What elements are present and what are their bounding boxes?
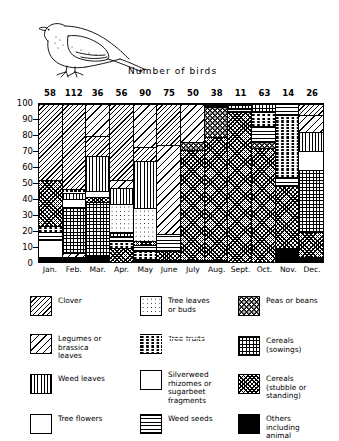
bar-segment (157, 260, 180, 262)
legend-swatch (238, 374, 260, 394)
bar-segment (86, 156, 109, 191)
bar-segment (134, 104, 157, 147)
bar-segment (252, 104, 275, 112)
bar-segment (276, 104, 299, 115)
legend-swatch (30, 414, 52, 434)
bar-segment (252, 126, 275, 142)
bar-segment (110, 104, 133, 180)
bar-segment (63, 199, 86, 207)
y-axis-tick-label: 70 (22, 147, 33, 156)
bar-column (157, 104, 181, 262)
bar-segment (276, 248, 299, 262)
y-axis-tick-label: 100 (17, 99, 33, 108)
legend-swatch (140, 334, 162, 354)
bar-segment (205, 260, 228, 262)
month-label: Nov. (276, 265, 300, 275)
legend-swatch (238, 414, 260, 434)
legend-item: Weed leaves (30, 374, 105, 394)
bar-segment (181, 104, 204, 142)
y-axis-tick-label: 40 (22, 195, 33, 204)
bar-column (63, 104, 87, 262)
month-label: Apr. (110, 265, 134, 275)
bar-segment (252, 142, 275, 148)
bar-segment (39, 257, 62, 262)
bar-column (110, 104, 134, 262)
bar-segment (86, 104, 109, 136)
legend-swatch (140, 296, 162, 316)
y-axis-tick-label: 50 (22, 179, 33, 188)
bar-segment (276, 177, 299, 186)
y-axis-tick-label: 20 (22, 227, 33, 236)
bar-segment (110, 241, 133, 247)
bird-count-label: 90 (133, 88, 157, 98)
bar-segment (157, 251, 180, 260)
bar-segment (39, 104, 62, 180)
bar-segment (228, 109, 251, 112)
bar-segment (157, 234, 180, 251)
bar-segment (63, 104, 86, 189)
bar-column (276, 104, 300, 262)
y-axis-tick-label: 30 (22, 211, 33, 220)
month-label: Dec. (300, 265, 324, 275)
bar-column (181, 104, 205, 262)
legend-item: Weed seeds (140, 414, 213, 434)
bar-segment (63, 257, 86, 262)
bar-segment (299, 232, 323, 257)
bar-segment (110, 188, 133, 204)
bar-segment (228, 112, 251, 262)
legend-label: Cereals (sowings) (266, 336, 301, 354)
bird-count-label: 50 (181, 88, 205, 98)
bird-count-label: 26 (300, 88, 324, 98)
bar-column (252, 104, 276, 262)
bar-segment (276, 115, 299, 177)
bar-segment (86, 202, 109, 256)
bar-segment (39, 240, 62, 257)
bar-segment (252, 112, 275, 126)
legend-swatch (238, 296, 260, 316)
bar-segment (63, 193, 86, 199)
bar-column (205, 104, 229, 262)
bar-segment (299, 170, 323, 232)
bar-segment (205, 137, 228, 260)
bar-segment (134, 241, 157, 244)
bar-column (299, 104, 323, 262)
legend-item: Tree fruits (140, 334, 205, 354)
bar-segment (110, 237, 133, 242)
bar-segment (205, 107, 228, 137)
legend-item: Clover (30, 296, 82, 316)
legend-swatch (30, 334, 52, 354)
legend-item: Cereals (stubble or standing) (238, 374, 306, 401)
bar-segment (157, 145, 180, 233)
bar-segment (181, 142, 204, 150)
bird-count-label: 75 (157, 88, 181, 98)
legend-label: Peas or beans (266, 296, 318, 306)
bar-segment (110, 232, 133, 237)
bar-segment (110, 248, 133, 262)
legend-item: Peas or beans (238, 296, 318, 316)
month-label: Jan. (38, 265, 62, 275)
bar-column (134, 104, 158, 262)
legend-label: Clover (58, 296, 82, 306)
bird-count-label: 14 (276, 88, 300, 98)
bird-count-label: 11 (229, 88, 253, 98)
bar-segment (39, 226, 62, 232)
bar-segment (134, 161, 157, 208)
bar-segment (86, 256, 109, 262)
legend-item: Cereals (sowings) (238, 336, 301, 356)
bar-segment (181, 150, 204, 261)
legend-swatch (140, 414, 162, 434)
bar-column (228, 104, 252, 262)
bar-segment (134, 259, 157, 262)
legend-item: Legumes or brassica leaves (30, 334, 101, 361)
month-label: Sept. (229, 265, 253, 275)
bar-segment (299, 257, 323, 262)
month-label: June (157, 265, 181, 275)
month-label: Aug. (205, 265, 229, 275)
y-axis-tick-label: 0 (28, 259, 33, 268)
month-label: July (181, 265, 205, 275)
bird-count-label: 58 (38, 88, 62, 98)
y-axis-tick-label: 10 (22, 243, 33, 252)
bar-segment (63, 189, 86, 192)
bar-segment (252, 148, 275, 262)
